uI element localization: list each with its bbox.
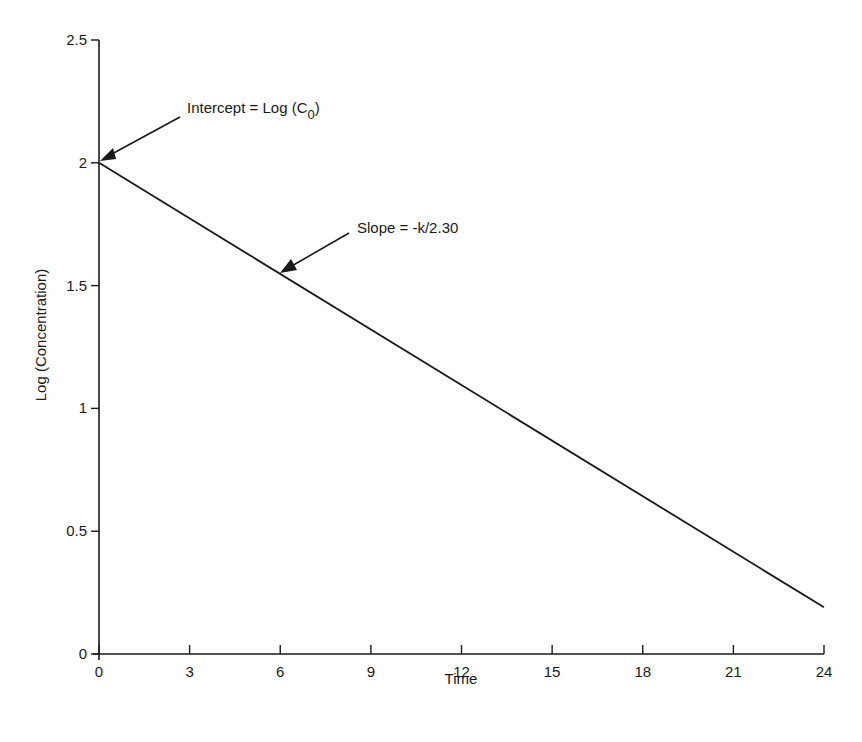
data-series [99, 163, 824, 608]
x-tick-label: 18 [634, 663, 651, 680]
intercept-arrow-line [110, 117, 180, 155]
intercept-label: Intercept = Log (C0) [187, 99, 320, 122]
series-line [99, 163, 824, 608]
x-tick-label: 21 [725, 663, 742, 680]
y-tick-label: 2 [79, 154, 87, 171]
axes [93, 40, 824, 660]
slope-annotation: Slope = -k/2.30 [280, 219, 458, 273]
x-tick-label: 9 [367, 663, 375, 680]
y-tick-label: 0 [79, 645, 87, 662]
intercept-annotation: Intercept = Log (C0) [100, 99, 320, 161]
arrowhead-icon [100, 148, 116, 161]
chart: 0369121518212400.511.522.5 Time Log (Con… [0, 0, 862, 742]
y-tick-label: 0.5 [66, 522, 87, 539]
slope-arrow-line [290, 233, 349, 267]
arrowhead-icon [280, 259, 297, 273]
ticks: 0369121518212400.511.522.5 [66, 31, 832, 680]
y-axis-title: Log (Concentration) [32, 269, 49, 402]
x-axis-title: Time [445, 670, 478, 687]
y-tick-label: 1.5 [66, 277, 87, 294]
x-tick-label: 0 [95, 663, 103, 680]
x-tick-label: 6 [276, 663, 284, 680]
x-tick-label: 24 [816, 663, 833, 680]
slope-label: Slope = -k/2.30 [357, 219, 458, 236]
y-tick-label: 2.5 [66, 31, 87, 48]
x-tick-label: 3 [185, 663, 193, 680]
x-tick-label: 15 [544, 663, 561, 680]
y-tick-label: 1 [79, 399, 87, 416]
